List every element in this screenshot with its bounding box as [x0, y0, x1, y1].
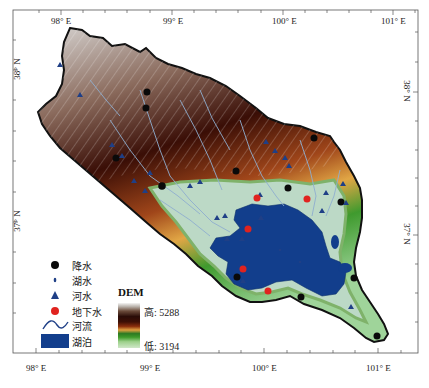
small-lake-1	[331, 235, 339, 249]
legend-label: 河流	[72, 318, 92, 333]
red-dot-icon	[40, 304, 70, 318]
legend-item-lake-water: 湖水	[40, 273, 92, 287]
map-figure: 98° E 99° E 100° E 101° E 98° E 99° E 10…	[0, 0, 429, 388]
lat-label-right-37: 37° N	[402, 223, 412, 244]
legend-label: 地下水	[72, 304, 102, 319]
map-legend: 降水 湖水 河水 地下水 河流	[40, 258, 220, 350]
lon-label-top-100: 100° E	[272, 16, 297, 26]
small-lake-2	[338, 263, 352, 273]
lat-label-left-37: 37° N	[12, 210, 22, 231]
river-line-icon	[40, 318, 70, 332]
legend-item-precipitation: 降水	[40, 258, 92, 272]
blue-triangle-icon	[40, 288, 70, 302]
legend-label: 湖水	[72, 273, 92, 288]
dem-high-label: 高: 5288	[144, 304, 179, 319]
dem-legend-title: DEM	[118, 286, 144, 298]
mountain-texture	[38, 28, 340, 182]
lon-label-bottom-100: 100° E	[252, 363, 277, 373]
legend-label: 河水	[72, 288, 92, 303]
legend-item-lake: 湖泊	[40, 334, 92, 348]
lon-label-top-99: 99° E	[163, 16, 183, 26]
legend-item-groundwater: 地下水	[40, 304, 102, 318]
lon-label-bottom-99: 99° E	[140, 363, 160, 373]
lon-label-top-101: 101° E	[381, 16, 406, 26]
legend-label: 降水	[72, 258, 92, 273]
left-ticks	[13, 40, 18, 313]
right-ticks	[413, 32, 418, 322]
lon-label-top-98: 98° E	[51, 16, 71, 26]
lon-label-bottom-98: 98° E	[26, 363, 46, 373]
lat-label-left-38: 38° N	[12, 58, 22, 79]
lat-label-right-38: 38° N	[402, 80, 412, 101]
legend-item-river-water: 河水	[40, 288, 92, 302]
legend-label: 湖泊	[72, 334, 92, 349]
black-dot-icon	[40, 258, 70, 272]
top-ticks	[39, 10, 415, 15]
lake-rect-icon	[40, 334, 70, 348]
lon-label-bottom-101: 101° E	[366, 363, 391, 373]
small-diamond-icon	[40, 273, 70, 287]
dem-low-label: 低: 3194	[144, 338, 179, 353]
legend-item-river: 河流	[40, 318, 92, 332]
dem-color-ramp	[118, 303, 140, 348]
